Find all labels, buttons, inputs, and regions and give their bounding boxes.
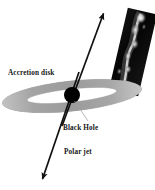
polar-jet-label: Polar jet: [64, 148, 92, 156]
black-hole-diagram: Accretion disk Black Hole Polar jet: [0, 0, 155, 190]
diagram-canvas: Accretion disk Black Hole Polar jet: [0, 0, 155, 190]
black-hole-label: Black Hole: [63, 124, 98, 132]
accretion-disk-label: Accretion disk: [8, 69, 55, 77]
black-hole-sphere: [64, 87, 80, 103]
